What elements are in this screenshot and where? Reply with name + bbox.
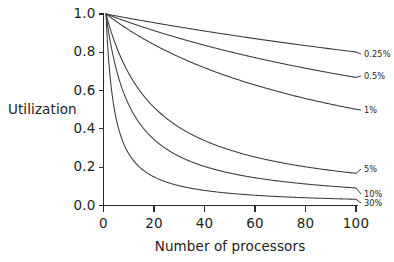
x-tick-label: 80	[286, 217, 326, 231]
y-tick-label: 0.6	[62, 84, 96, 98]
axes-group	[104, 14, 359, 206]
x-tick-label: 60	[235, 217, 275, 231]
series-leader-line	[356, 109, 361, 110]
y-axis-title: Utilization	[8, 103, 77, 117]
series-curve-10pct	[106, 14, 356, 188]
series-curve-30pct	[106, 14, 356, 199]
y-tick-label: 0.4	[62, 122, 96, 136]
y-tick-label: 0.0	[62, 199, 96, 213]
series-leader-line	[356, 199, 361, 203]
chart-figure: Utilization Number of processors 0.00.20…	[0, 0, 394, 262]
y-tick-label: 1.0	[62, 7, 96, 21]
series-curve-5pct	[106, 14, 356, 173]
series-leader-lines	[356, 52, 361, 203]
y-axis-ticks	[99, 14, 104, 206]
series-leader-line	[356, 188, 361, 194]
series-label-1pct: 1%	[364, 106, 377, 114]
x-axis-ticks	[104, 206, 357, 212]
series-label-10pct: 10%	[364, 190, 383, 198]
series-leader-line	[356, 169, 361, 173]
x-tick-label: 0	[84, 217, 124, 231]
series-label-5pct: 5%	[364, 165, 377, 173]
y-tick-label: 0.2	[62, 160, 96, 174]
y-tick-label: 0.8	[62, 45, 96, 59]
x-tick-label: 100	[336, 217, 376, 231]
series-curve-0-5pct	[106, 14, 356, 77]
series-leader-line	[356, 76, 361, 77]
x-tick-label: 20	[134, 217, 174, 231]
series-curve-0-25pct	[106, 14, 356, 52]
series-curves	[106, 14, 356, 199]
series-label-0-5pct: 0.5%	[364, 72, 385, 80]
series-leader-line	[356, 52, 361, 54]
series-label-0-25pct: 0.25%	[364, 50, 391, 58]
series-label-30pct: 30%	[364, 199, 383, 207]
x-axis-title: Number of processors	[150, 240, 310, 254]
x-tick-label: 40	[185, 217, 225, 231]
